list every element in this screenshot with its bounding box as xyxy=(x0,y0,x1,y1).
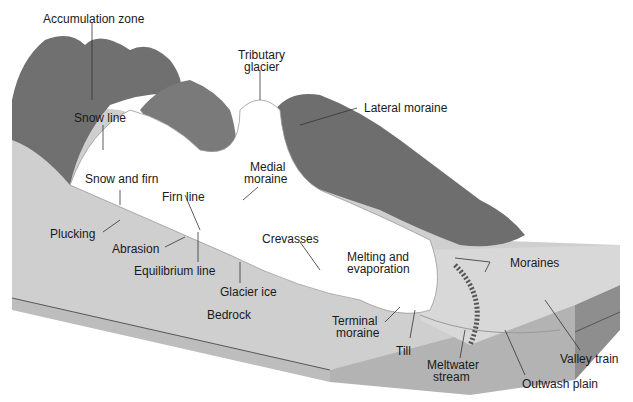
label-crevasses: Crevasses xyxy=(262,232,319,246)
label-plucking: Plucking xyxy=(50,227,95,241)
label-snow-line: Snow line xyxy=(74,111,126,125)
label-firn-line: Firn line xyxy=(162,190,205,204)
label-meltwater-line2: stream xyxy=(433,370,470,384)
label-bedrock: Bedrock xyxy=(207,308,251,322)
label-accumulation-zone: Accumulation zone xyxy=(43,12,144,26)
label-snow-and-firn: Snow and firn xyxy=(85,172,158,186)
label-tributary-glacier-line2: glacier xyxy=(244,60,279,74)
label-abrasion: Abrasion xyxy=(112,242,159,256)
label-medial-moraine-line2: moraine xyxy=(244,172,287,186)
label-terminal-moraine-line2: moraine xyxy=(336,326,379,340)
label-glacier-ice: Glacier ice xyxy=(220,285,277,299)
label-outwash-plain: Outwash plain xyxy=(522,377,598,391)
label-equilibrium-line: Equilibrium line xyxy=(134,264,215,278)
glacier-illustration xyxy=(0,0,633,402)
label-melting-line2: evaporation xyxy=(347,262,410,276)
glacier-diagram: Accumulation zone Tributary glacier Late… xyxy=(0,0,633,402)
label-lateral-moraine: Lateral moraine xyxy=(364,101,447,115)
label-valley-train: Valley train xyxy=(560,352,618,366)
label-moraines: Moraines xyxy=(510,256,559,270)
label-till: Till xyxy=(396,344,411,358)
